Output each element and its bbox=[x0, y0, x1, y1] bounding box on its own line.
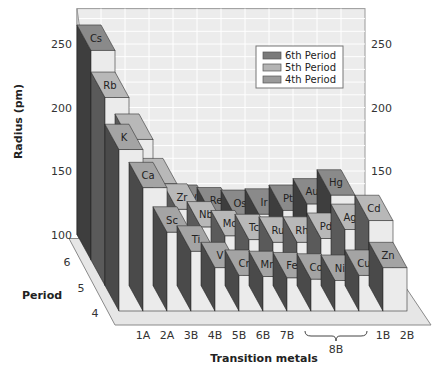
element-label: K bbox=[121, 132, 128, 143]
element-label: Pd bbox=[320, 221, 332, 232]
x-tick: 1A bbox=[136, 329, 151, 342]
legend-swatch bbox=[263, 52, 281, 59]
element-label: Ir bbox=[260, 197, 268, 208]
y-axis-title: Radius (pm) bbox=[12, 84, 25, 159]
y-tick-left: 200 bbox=[51, 102, 72, 115]
y-tick-left: 150 bbox=[51, 165, 72, 178]
z-axis-title: Period bbox=[22, 289, 62, 302]
element-label: Zn bbox=[381, 250, 394, 261]
legend-swatch bbox=[263, 64, 281, 71]
element-label: Ag bbox=[343, 212, 356, 223]
element-label: Co bbox=[309, 262, 322, 273]
legend-label: 5th Period bbox=[285, 62, 336, 73]
y-tick-right: 200 bbox=[371, 102, 392, 115]
x-tick: 5B bbox=[232, 329, 247, 342]
x-tick: 7B bbox=[280, 329, 295, 342]
chart: CsWReOsIrPtAuHgRbZrNbMoTcRuRhPdAgCdKCaSc… bbox=[0, 0, 443, 379]
element-label: V bbox=[217, 250, 224, 261]
element-label: Pt bbox=[283, 193, 293, 204]
legend-label: 6th Period bbox=[285, 50, 336, 61]
z-tick: 6 bbox=[64, 256, 71, 269]
element-label: Cr bbox=[238, 258, 250, 269]
x-tick: 2B bbox=[400, 329, 415, 342]
x-tick: 3B bbox=[184, 329, 199, 342]
z-tick: 5 bbox=[78, 282, 85, 295]
element-label: Os bbox=[233, 198, 246, 209]
element-label: Ca bbox=[141, 170, 154, 181]
element-label: Ni bbox=[335, 263, 345, 274]
element-label: Zr bbox=[177, 192, 189, 203]
legend-swatch bbox=[263, 76, 281, 83]
legend-label: 4th Period bbox=[285, 74, 336, 85]
element-label: Sc bbox=[166, 215, 178, 226]
x-tick: 4B bbox=[208, 329, 223, 342]
element-label: Ru bbox=[272, 225, 285, 236]
y-tick-left: 250 bbox=[51, 38, 72, 51]
element-label: Rb bbox=[103, 80, 116, 91]
y-tick-right: 150 bbox=[371, 165, 392, 178]
bracket-8b bbox=[305, 331, 367, 341]
x-axis-title: Transition metals bbox=[210, 352, 318, 365]
x-tick: 1B bbox=[376, 329, 391, 342]
element-label: Fe bbox=[286, 260, 297, 271]
element-label: Rh bbox=[295, 225, 308, 236]
y-tick-right: 250 bbox=[371, 38, 392, 51]
element-label: Ti bbox=[191, 234, 201, 245]
element-label: Cd bbox=[367, 203, 380, 214]
legend: 6th Period5th Period4th Period bbox=[256, 46, 343, 88]
element-label: Au bbox=[305, 186, 318, 197]
x-tick: 6B bbox=[256, 329, 271, 342]
z-tick: 4 bbox=[92, 307, 99, 320]
element-label: Tc bbox=[248, 222, 259, 233]
x-tick: 2A bbox=[160, 329, 175, 342]
element-label: Cu bbox=[357, 258, 370, 269]
y-tick-left: 100 bbox=[51, 229, 72, 242]
x-tick-8b: 8B bbox=[329, 343, 344, 356]
element-label: Hg bbox=[329, 177, 343, 188]
element-label: Cs bbox=[90, 33, 102, 44]
